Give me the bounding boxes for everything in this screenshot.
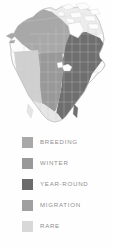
legend-item-rare: RARE	[0, 216, 113, 237]
map-svg	[0, 0, 113, 130]
legend-label-year-round: YEAR-ROUND	[40, 181, 88, 187]
map-legend: BREEDING WINTER YEAR-ROUND MIGRATION RAR…	[0, 132, 113, 247]
legend-item-breeding: BREEDING	[0, 132, 113, 153]
legend-swatch-year-round	[22, 179, 33, 190]
legend-swatch-winter	[22, 158, 33, 169]
legend-label-rare: RARE	[40, 223, 60, 229]
legend-swatch-breeding	[22, 137, 33, 148]
north-america-range-map	[0, 0, 113, 130]
legend-label-winter: WINTER	[40, 160, 69, 166]
legend-label-breeding: BREEDING	[40, 139, 78, 145]
legend-label-migration: MIGRATION	[40, 202, 81, 208]
legend-item-migration: MIGRATION	[0, 195, 113, 216]
legend-item-year-round: YEAR-ROUND	[0, 174, 113, 195]
legend-swatch-rare	[22, 221, 33, 232]
legend-swatch-migration	[22, 200, 33, 211]
range-map-figure: BREEDING WINTER YEAR-ROUND MIGRATION RAR…	[0, 0, 113, 247]
legend-item-winter: WINTER	[0, 153, 113, 174]
